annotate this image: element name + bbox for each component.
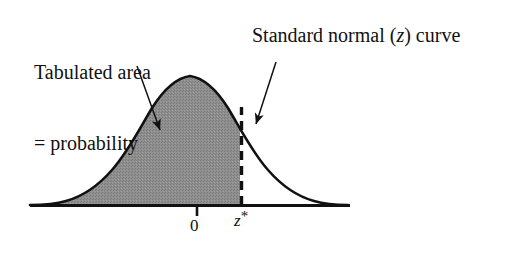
critical-value-superscript: * <box>241 208 249 224</box>
critical-value-axis-label: z* <box>234 208 248 231</box>
standard-normal-label-suffix: ) curve <box>404 24 460 46</box>
standard-normal-label-prefix: Standard normal ( <box>252 24 396 46</box>
tabulated-area-label: Tabulated area = probability <box>34 14 151 203</box>
critical-value-symbol: z <box>234 211 241 230</box>
standard-normal-curve-label: Standard normal (z) curve <box>252 24 460 48</box>
normal-curve-figure: Tabulated area = probability Standard no… <box>0 0 528 261</box>
origin-axis-label: 0 <box>190 216 199 236</box>
standard-normal-arrow <box>256 62 276 124</box>
tabulated-area-label-line1: Tabulated area <box>34 61 151 85</box>
tabulated-area-label-line2: = probability <box>34 132 151 156</box>
